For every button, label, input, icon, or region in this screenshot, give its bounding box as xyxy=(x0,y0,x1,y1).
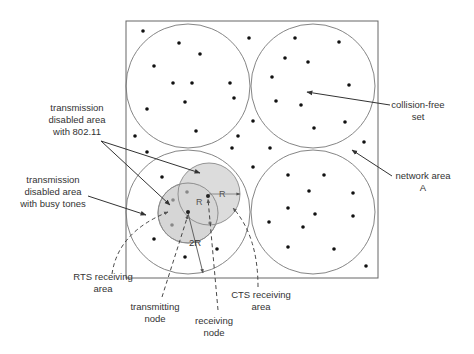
node-dot xyxy=(194,129,198,133)
node-dot xyxy=(133,134,137,138)
label-transmitting-node: transmitting node xyxy=(130,301,179,324)
label-busy-line2: disabled area xyxy=(24,186,82,197)
node-dot xyxy=(351,214,355,218)
label-na-line1: network area xyxy=(396,170,452,181)
node-dot xyxy=(251,119,255,123)
node-dot xyxy=(247,36,251,40)
node-dot xyxy=(230,146,234,150)
label-rx-line1: receiving xyxy=(195,315,233,326)
node-dot xyxy=(313,212,317,216)
node-dot xyxy=(183,255,187,259)
node-dot xyxy=(286,173,290,177)
arrow-80211-to-receiver-area xyxy=(101,141,200,173)
transmitting-node xyxy=(186,210,190,214)
label-cts: CTS receiving area xyxy=(231,289,291,312)
node-dot xyxy=(145,150,149,154)
node-dot xyxy=(183,100,187,104)
node-dot xyxy=(307,189,311,193)
label-rts-line2: area xyxy=(93,283,113,294)
node-dot xyxy=(177,41,181,45)
node-dot xyxy=(152,237,156,241)
node-dot xyxy=(171,81,175,85)
label-collision-free-set: collision-free set xyxy=(391,99,444,122)
disabled-node-dot xyxy=(185,190,189,194)
label-80211-line2: disabled area xyxy=(48,114,106,125)
node-dot xyxy=(347,83,351,87)
label-80211-line1: transmission xyxy=(50,102,103,113)
two-r-label: 2R xyxy=(189,237,201,248)
node-dot xyxy=(190,81,194,85)
node-dot xyxy=(228,81,232,85)
disabled-node-dot xyxy=(171,198,175,202)
node-dot xyxy=(293,36,297,40)
label-busy-line1: transmission xyxy=(26,174,79,185)
arrow-busy-tones xyxy=(88,196,146,215)
node-dot xyxy=(160,175,164,179)
node-dot xyxy=(337,40,341,44)
node-dot xyxy=(152,64,156,68)
node-dot xyxy=(198,52,202,56)
node-dot xyxy=(351,191,355,195)
node-dot xyxy=(145,107,149,111)
node-dot xyxy=(299,103,303,107)
node-dot xyxy=(301,225,305,229)
node-dot xyxy=(322,173,326,177)
collision-free-set-circles xyxy=(126,24,375,274)
node-dot xyxy=(274,99,278,103)
label-cfs-line2: set xyxy=(412,111,425,122)
node-dot xyxy=(306,60,310,64)
network-area-box xyxy=(126,21,378,278)
node-dot xyxy=(343,120,347,124)
disabled-node-dot xyxy=(170,223,174,227)
node-dot xyxy=(364,264,368,268)
node-dot xyxy=(270,75,274,79)
label-tx-line2: node xyxy=(144,313,165,324)
node-dot xyxy=(236,134,240,138)
arrow-network-area xyxy=(352,150,392,176)
r-inner-label: R xyxy=(196,197,203,207)
label-network-area: network area A xyxy=(396,170,452,193)
label-tx-line1: transmitting xyxy=(130,301,179,312)
label-cfs-line1: collision-free xyxy=(391,99,444,110)
label-receiving-node: receiving node xyxy=(195,315,233,338)
label-rts: RTS receiving area xyxy=(73,271,133,294)
node-dot xyxy=(251,165,255,169)
set-circle-top-left xyxy=(126,24,250,148)
label-80211: transmission disabled area with 802.11 xyxy=(48,102,106,137)
node-dot xyxy=(286,245,290,249)
node-dot xyxy=(232,96,236,100)
label-na-line2: A xyxy=(420,182,427,193)
set-circle-bottom-right xyxy=(251,150,375,274)
arrow-80211-to-transmitter-area xyxy=(101,141,170,205)
node-dot xyxy=(312,126,316,130)
label-80211-line3: with 802.11 xyxy=(52,126,101,137)
node-dot xyxy=(286,206,290,210)
node-dot xyxy=(283,56,287,60)
label-rts-line1: RTS receiving xyxy=(73,271,133,282)
node-dot xyxy=(267,220,271,224)
node-dot xyxy=(141,29,145,33)
label-cts-line2: area xyxy=(251,301,271,312)
network-diagram: R R 2R transmission disabled area with 8… xyxy=(0,0,474,354)
node-dot xyxy=(268,146,272,150)
label-rx-line2: node xyxy=(203,327,224,338)
node-dot xyxy=(362,140,366,144)
r-radius-label: R xyxy=(219,189,226,199)
label-cts-line1: CTS receiving xyxy=(231,289,291,300)
receiving-node xyxy=(206,194,210,198)
node-dot xyxy=(215,247,219,251)
node-dot xyxy=(332,247,336,251)
cts-leader xyxy=(233,208,258,287)
label-busy-tones: transmission disabled area with busy ton… xyxy=(19,174,86,209)
label-busy-line3: with busy tones xyxy=(19,198,86,209)
